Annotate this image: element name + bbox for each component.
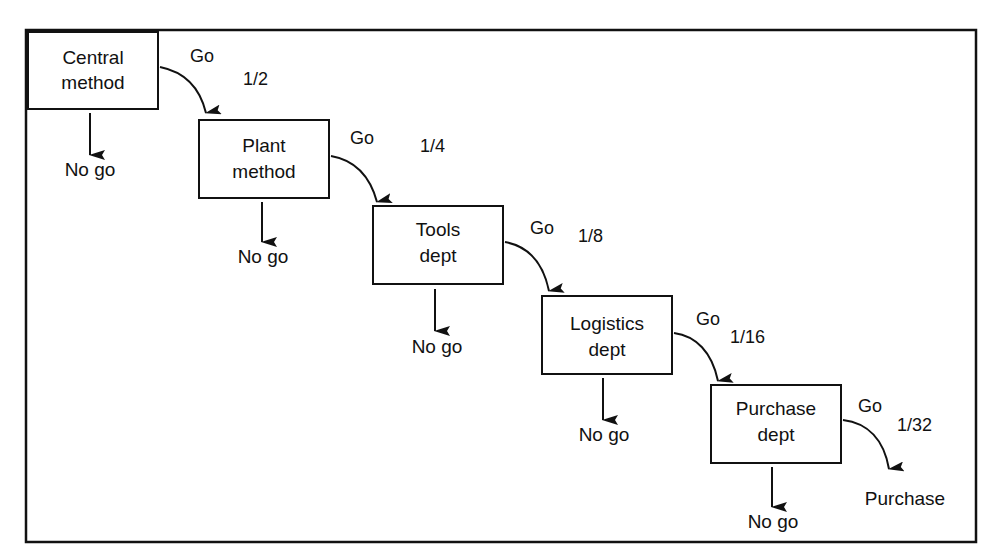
node-central-line1: Central [62, 47, 123, 68]
node-central-method: Central method [28, 32, 158, 109]
node-logistics-dept: Logistics dept [542, 296, 672, 374]
go-arrow-3 [505, 242, 549, 291]
node-logistics-line1: Logistics [570, 313, 644, 334]
node-purchase-line2: dept [758, 424, 796, 445]
no-go-label-3: No go [412, 336, 463, 357]
no-go-label-1: No go [65, 159, 116, 180]
final-purchase-label: Purchase [865, 488, 945, 509]
go-label-1: Go [190, 46, 214, 66]
no-go-label-2: No go [238, 246, 289, 267]
node-plant-line1: Plant [242, 135, 286, 156]
no-go-label-4: No go [579, 424, 630, 445]
go-arrow-2 [331, 156, 377, 202]
fraction-5: 1/32 [897, 415, 932, 435]
go-arrow-1 [160, 67, 206, 113]
node-logistics-line2: dept [589, 339, 627, 360]
go-arrow-4 [674, 333, 718, 381]
flowchart-canvas: Central method Plant method Tools dept L… [0, 0, 982, 557]
go-label-5: Go [858, 396, 882, 416]
fraction-2: 1/4 [420, 136, 445, 156]
fraction-4: 1/16 [730, 327, 765, 347]
node-purchase-dept: Purchase dept [711, 385, 841, 463]
go-label-4: Go [696, 309, 720, 329]
node-tools-dept: Tools dept [373, 206, 503, 284]
go-label-3: Go [530, 218, 554, 238]
node-central-line2: method [61, 72, 124, 93]
node-tools-line1: Tools [416, 219, 460, 240]
node-plant-line2: method [232, 161, 295, 182]
fraction-1: 1/2 [243, 69, 268, 89]
diagram-frame [26, 30, 976, 542]
go-label-2: Go [350, 128, 374, 148]
go-arrow-5 [843, 420, 889, 469]
node-plant-method: Plant method [199, 120, 329, 198]
no-go-label-5: No go [748, 511, 799, 532]
node-tools-line2: dept [420, 245, 458, 266]
node-purchase-line1: Purchase [736, 398, 816, 419]
fraction-3: 1/8 [578, 226, 603, 246]
